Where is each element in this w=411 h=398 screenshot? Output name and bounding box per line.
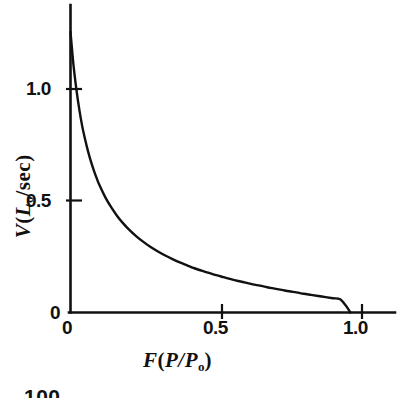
x-tick-label-1.0: 1.0 [343, 318, 368, 337]
y-axis-symbol: V [11, 224, 35, 239]
x-axis-title: F(P/Po) [143, 350, 212, 373]
y-axis-per-unit: /sec [11, 162, 35, 197]
page-number: 100 [24, 386, 61, 398]
y-axis-paren-open: ( [11, 216, 35, 224]
axes-group [69, 5, 395, 313]
y-tick-label-0: 0 [50, 303, 60, 322]
force-velocity-plot [0, 0, 411, 398]
y-axis-unit-symbol: L [11, 203, 35, 216]
x-axis-numerator: P [165, 348, 178, 372]
figure-container: 1.0 0.5 0 0 0.5 1.0 F(P/Po) V(Lo/sec) 10… [0, 0, 411, 398]
y-axis-title: V(Lo/sec) [13, 126, 36, 266]
force-velocity-curve [71, 32, 351, 312]
x-axis-symbol: F [143, 348, 158, 372]
x-axis-denominator: P [185, 348, 198, 372]
y-axis-unit-subscript: o [21, 196, 36, 203]
y-tick-label-1.0: 1.0 [26, 79, 51, 98]
x-tick-label-0.5: 0.5 [203, 318, 228, 337]
x-tick-label-0: 0 [62, 318, 72, 337]
x-axis-paren-close: ) [205, 348, 213, 372]
y-axis-paren-close: ) [11, 154, 35, 162]
x-axis-paren-open: ( [158, 348, 166, 372]
